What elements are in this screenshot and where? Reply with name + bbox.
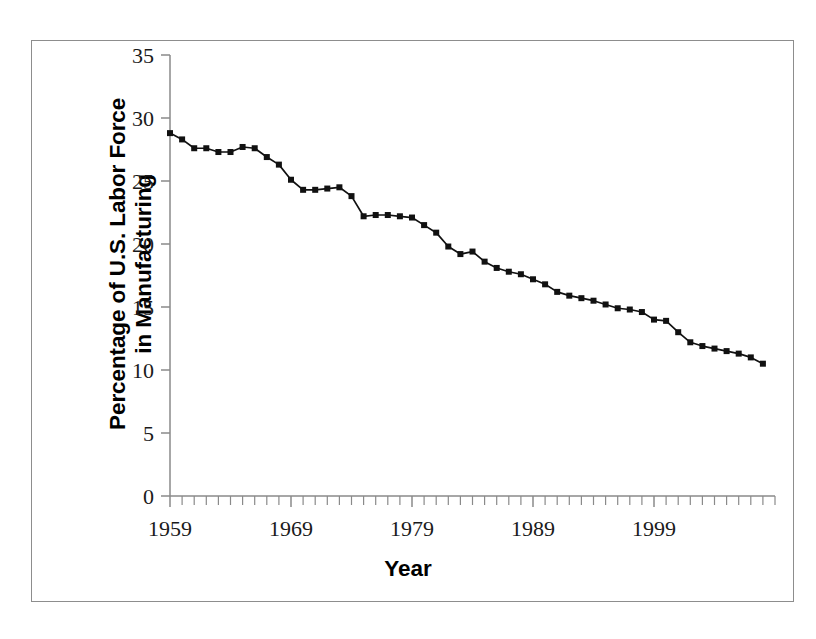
data-point-marker bbox=[361, 213, 367, 219]
data-point-marker bbox=[530, 276, 536, 282]
data-point-marker bbox=[699, 343, 705, 349]
data-point-marker bbox=[663, 318, 669, 324]
data-point-marker bbox=[288, 177, 294, 183]
data-point-marker bbox=[518, 271, 524, 277]
data-point-marker bbox=[760, 361, 766, 367]
data-point-marker bbox=[228, 149, 234, 155]
data-point-marker bbox=[300, 187, 306, 193]
data-point-marker bbox=[264, 154, 270, 160]
data-point-marker bbox=[736, 351, 742, 357]
data-point-marker bbox=[482, 259, 488, 265]
data-point-marker bbox=[421, 222, 427, 228]
line-chart-plot: 05101520253035 19591969197919891999 bbox=[0, 0, 816, 639]
data-point-marker bbox=[373, 212, 379, 218]
data-point-marker bbox=[615, 305, 621, 311]
x-tick-label: 1989 bbox=[511, 516, 555, 541]
data-point-marker bbox=[179, 136, 185, 142]
y-tick-label: 15 bbox=[132, 295, 154, 320]
x-tick-label: 1969 bbox=[269, 516, 313, 541]
data-point-marker bbox=[324, 186, 330, 192]
data-point-marker bbox=[397, 213, 403, 219]
data-point-marker bbox=[639, 309, 645, 315]
y-axis-tick-labels: 05101520253035 bbox=[132, 43, 154, 509]
x-tick-label: 1979 bbox=[390, 516, 434, 541]
data-point-marker bbox=[687, 339, 693, 345]
figure-root: Percentage of U.S. Labor Force in Manufa… bbox=[0, 0, 816, 639]
data-point-marker bbox=[578, 295, 584, 301]
data-point-marker bbox=[603, 301, 609, 307]
y-tick-label: 25 bbox=[132, 169, 154, 194]
y-tick-label: 5 bbox=[143, 421, 154, 446]
data-point-marker bbox=[627, 307, 633, 313]
data-point-marker bbox=[712, 346, 718, 352]
data-point-marker bbox=[748, 354, 754, 360]
data-point-marker bbox=[457, 251, 463, 257]
data-point-marker bbox=[494, 265, 500, 271]
x-tick-label: 1959 bbox=[148, 516, 192, 541]
data-point-marker bbox=[724, 348, 730, 354]
data-point-marker bbox=[651, 317, 657, 323]
data-point-marker bbox=[385, 212, 391, 218]
data-point-marker bbox=[433, 230, 439, 236]
x-tick-label: 1999 bbox=[632, 516, 676, 541]
y-tick-label: 0 bbox=[143, 484, 154, 509]
data-point-marker bbox=[445, 244, 451, 250]
data-point-marker bbox=[591, 298, 597, 304]
data-point-marker bbox=[252, 145, 258, 151]
y-tick-label: 20 bbox=[132, 232, 154, 257]
data-point-marker bbox=[506, 269, 512, 275]
data-point-marker bbox=[203, 145, 209, 151]
data-point-marker bbox=[191, 145, 197, 151]
data-point-marker bbox=[312, 187, 318, 193]
data-point-marker bbox=[240, 144, 246, 150]
data-point-marker bbox=[409, 215, 415, 221]
series-markers bbox=[167, 130, 766, 367]
data-point-marker bbox=[470, 249, 476, 255]
data-point-marker bbox=[566, 293, 572, 299]
data-point-marker bbox=[554, 289, 560, 295]
data-point-marker bbox=[675, 329, 681, 335]
data-point-marker bbox=[276, 162, 282, 168]
data-point-marker bbox=[167, 130, 173, 136]
y-tick-label: 30 bbox=[132, 106, 154, 131]
data-point-marker bbox=[349, 193, 355, 199]
y-axis-ticks bbox=[161, 55, 170, 496]
data-point-marker bbox=[215, 149, 221, 155]
y-tick-label: 10 bbox=[132, 358, 154, 383]
x-axis-ticks bbox=[170, 496, 775, 507]
data-point-marker bbox=[336, 184, 342, 190]
data-point-marker bbox=[542, 281, 548, 287]
x-axis-tick-labels: 19591969197919891999 bbox=[148, 516, 676, 541]
series-line bbox=[170, 133, 763, 364]
y-tick-label: 35 bbox=[132, 43, 154, 68]
